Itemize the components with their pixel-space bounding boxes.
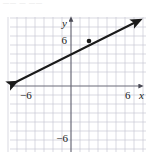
y-axis-name-label: y [61, 17, 67, 29]
top-edge-artifact-text: —— — —— [3, 0, 43, 6]
x-axis-name-label: x [138, 89, 144, 101]
plot-background [10, 17, 146, 152]
y-axis-negative-tick-label: −6 [56, 132, 68, 144]
y-axis-positive-tick-label: 6 [62, 34, 68, 46]
graph-svg: −6 6 6 −6 y x [0, 0, 150, 155]
coordinate-plane-figure: —— — —— [0, 0, 150, 155]
marked-point [87, 39, 92, 44]
x-axis-positive-tick-label: 6 [125, 89, 131, 101]
x-axis-negative-tick-label: −6 [20, 89, 32, 101]
